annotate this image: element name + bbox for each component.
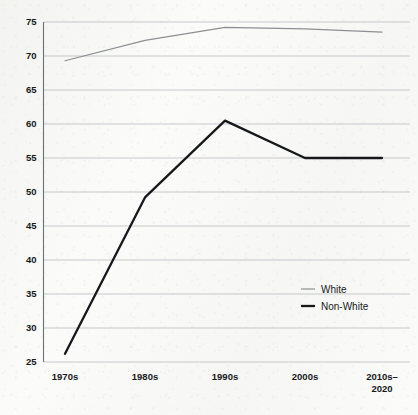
y-tick-label: 35 <box>26 288 37 299</box>
y-tick-label: 45 <box>26 220 37 231</box>
series-line-non-white <box>65 121 382 354</box>
y-tick-label: 50 <box>26 186 37 197</box>
line-chart: 2530354045505560657075 1970s1980s1990s20… <box>0 0 418 415</box>
y-tick-label: 40 <box>26 254 37 265</box>
legend-label-non-white[interactable]: Non-White <box>321 301 369 312</box>
x-tick-label: 1970s <box>52 371 78 382</box>
x-tick-labels: 1970s1980s1990s2000s2010s–2020 <box>52 371 398 394</box>
y-tick-label: 60 <box>26 118 37 129</box>
legend-label-white[interactable]: White <box>321 284 347 295</box>
y-tick-label: 30 <box>26 322 37 333</box>
y-tick-label: 55 <box>26 152 37 163</box>
y-tick-label: 25 <box>26 356 37 367</box>
y-tick-label: 70 <box>26 50 37 61</box>
x-tick-label: 2010s–2020 <box>366 371 398 394</box>
y-tick-label: 75 <box>26 16 37 27</box>
y-tick-labels: 2530354045505560657075 <box>26 16 37 367</box>
chart-legend[interactable]: WhiteNon-White <box>301 284 369 312</box>
x-tick-label: 1990s <box>212 371 238 382</box>
chart-container: 2530354045505560657075 1970s1980s1990s20… <box>0 0 418 415</box>
y-tick-label: 65 <box>26 84 37 95</box>
x-tick-label: 2000s <box>292 371 318 382</box>
x-tick-label: 1980s <box>132 371 158 382</box>
